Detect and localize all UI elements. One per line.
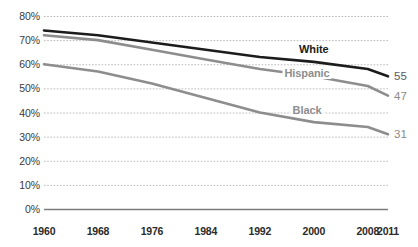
chart-svg [0, 0, 418, 247]
x-tick-label-1960: 1960 [33, 225, 56, 237]
y-tick-label-20: 20% [0, 155, 40, 167]
series-label-white: White [297, 43, 330, 55]
y-tick-label-50: 50% [0, 82, 40, 94]
series-line-black [44, 64, 388, 134]
x-tick-label-1984: 1984 [195, 225, 218, 237]
y-tick-label-10: 10% [0, 179, 40, 191]
series-label-black: Black [291, 104, 324, 116]
y-tick-label-80: 80% [0, 10, 40, 22]
series-line-white [44, 30, 388, 76]
x-tick-label-2008: 2008 [356, 225, 379, 237]
x-tick-label-1968: 1968 [87, 225, 110, 237]
y-tick-label-0: 0% [0, 203, 40, 215]
y-tick-label-70: 70% [0, 34, 40, 46]
chart-container: 0%10%20%30%40%50%60%70%80% 1960196819761… [0, 0, 418, 247]
x-tick-label-2011: 2011 [377, 225, 399, 237]
x-tick-label-2000: 2000 [303, 225, 326, 237]
x-tick-label-1992: 1992 [249, 225, 272, 237]
series-label-hispanic: Hispanic [283, 67, 332, 79]
y-tick-label-60: 60% [0, 58, 40, 70]
plot-area: 0%10%20%30%40%50%60%70%80% 1960196819761… [0, 0, 418, 247]
end-value-black: 31 [394, 128, 407, 140]
end-value-white: 55 [394, 70, 407, 82]
y-tick-label-40: 40% [0, 107, 40, 119]
x-tick-label-1976: 1976 [141, 225, 164, 237]
y-tick-label-30: 30% [0, 131, 40, 143]
end-value-hispanic: 47 [394, 90, 407, 102]
